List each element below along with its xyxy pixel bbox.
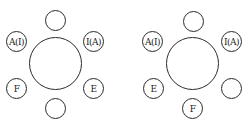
seat-top — [45, 10, 66, 31]
seat-lower-right: E — [83, 78, 104, 99]
seat-upper-right: I(A) — [221, 31, 242, 52]
seat-lower-right — [221, 78, 242, 99]
right-seating-diagram: A(I) I(A) E F — [124, 0, 248, 126]
round-table — [166, 37, 219, 90]
left-seating-diagram: A(I) I(A) F E — [0, 0, 124, 126]
seat-bottom: F — [182, 98, 203, 119]
seat-top — [183, 11, 204, 32]
seat-upper-left: A(I) — [142, 31, 163, 52]
seat-bottom — [45, 98, 66, 119]
seat-lower-left: F — [6, 78, 27, 99]
seat-lower-left: E — [143, 78, 164, 99]
round-table — [29, 37, 82, 90]
seat-upper-right: I(A) — [83, 31, 104, 52]
seat-upper-left: A(I) — [6, 31, 27, 52]
